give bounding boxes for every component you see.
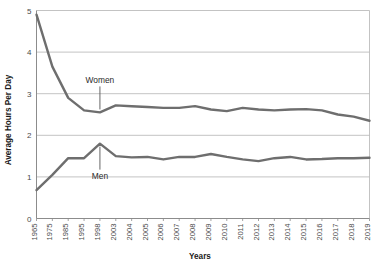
x-tick-label: 1985 bbox=[61, 224, 70, 241]
y-axis-title: Average Hours Per Day bbox=[4, 74, 13, 165]
axis-lines bbox=[37, 11, 370, 219]
x-tick-label: 2014 bbox=[283, 224, 292, 241]
x-tick-label: 1965 bbox=[30, 224, 39, 241]
series-annotations: WomenMen bbox=[86, 75, 115, 180]
x-tick-label: 2005 bbox=[141, 224, 150, 241]
x-tick-label: 2009 bbox=[204, 224, 213, 241]
series-line-women bbox=[37, 15, 370, 121]
chart-canvas: 012345 196519751985199519982003200420052… bbox=[0, 0, 386, 266]
series-line-men bbox=[37, 144, 370, 191]
gridlines bbox=[37, 11, 370, 219]
x-tick-label: 2007 bbox=[172, 224, 181, 241]
line-chart: 012345 196519751985199519982003200420052… bbox=[0, 0, 386, 266]
y-tick-label: 1 bbox=[27, 173, 32, 182]
x-tick-label: 2015 bbox=[299, 224, 308, 241]
x-tick-label: 2012 bbox=[252, 224, 261, 241]
x-tick-label: 2018 bbox=[347, 224, 356, 241]
x-tick-label: 2019 bbox=[363, 224, 372, 241]
y-tick-label: 5 bbox=[27, 7, 32, 16]
x-tick-label: 1995 bbox=[77, 224, 86, 241]
data-series bbox=[37, 15, 370, 191]
x-tick-label: 2004 bbox=[125, 224, 134, 241]
x-tick-label: 1998 bbox=[93, 224, 102, 241]
annotation-label-women: Women bbox=[86, 75, 115, 85]
x-axis-title: Years bbox=[189, 252, 211, 261]
x-tick-label: 2010 bbox=[220, 224, 229, 241]
x-tick-label: 2011 bbox=[236, 224, 245, 240]
x-tick-label: 2013 bbox=[267, 224, 276, 241]
annotation-label-men: Men bbox=[92, 171, 109, 181]
x-tick-label: 2006 bbox=[156, 224, 165, 241]
x-tick-label: 2003 bbox=[109, 224, 118, 241]
x-tick-label: 2016 bbox=[315, 224, 324, 241]
y-axis-tick-labels: 012345 bbox=[27, 7, 32, 224]
x-tick-label: 2017 bbox=[331, 224, 340, 241]
x-tick-label: 1975 bbox=[45, 224, 54, 241]
y-tick-label: 0 bbox=[27, 215, 32, 224]
x-tick-label: 2008 bbox=[188, 224, 197, 241]
y-tick-label: 2 bbox=[27, 131, 32, 140]
y-tick-label: 3 bbox=[27, 90, 32, 99]
y-tick-label: 4 bbox=[27, 48, 32, 57]
x-axis-tick-labels: 1965197519851995199820032004200520062007… bbox=[30, 224, 372, 241]
